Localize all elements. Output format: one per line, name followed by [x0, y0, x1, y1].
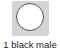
symbol-tile: [12, 1, 49, 36]
circle-icon: [16, 3, 44, 31]
symbol-label: 1 black male: [0, 39, 60, 51]
